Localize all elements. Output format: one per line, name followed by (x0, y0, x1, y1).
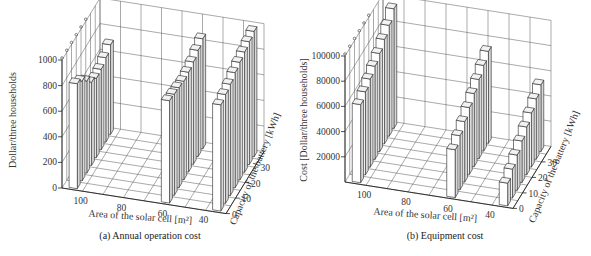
x-tick-label: 100 (73, 196, 88, 206)
z-tick-label: 80000 (316, 76, 340, 86)
y-tick-label: 0 (519, 204, 524, 214)
x-tick-label: 40 (199, 215, 209, 225)
z-tick-label: 40000 (316, 127, 340, 137)
x-tick-label: 100 (357, 190, 372, 200)
z-tick-label: 200 (43, 157, 58, 167)
chart-b-plot: 2000040000600008000010000010080604001020… (295, 0, 591, 256)
z-tick-label: 400 (43, 132, 58, 142)
z-tick-label: 20000 (316, 152, 340, 162)
z-axis-label: Cost [Dollar/three households] (298, 58, 309, 181)
x-tick-label: 40 (485, 210, 495, 220)
plot-group: 2000040000600008000010000010080604001020… (298, 0, 581, 224)
chart-b-caption: (b) Equipment cost (355, 230, 535, 241)
z-tick-label: 800 (43, 81, 58, 91)
z-tick-label: 100000 (312, 51, 341, 61)
z-tick-label: 0 (52, 183, 57, 193)
chart-panel-annual-operation-cost: 020040060080010001008060400102030Dollar/… (0, 0, 295, 256)
z-tick-label: 1000 (38, 55, 57, 65)
x-axis-label: Area of the solar cell [m²] (88, 207, 192, 225)
z-tick-label: 60000 (316, 101, 340, 111)
z-axis-label: Dollar/three households (7, 72, 18, 168)
chart-panel-equipment-cost: 2000040000600008000010000010080604001020… (295, 0, 591, 256)
chart-a-caption: (a) Annual operation cost (60, 230, 240, 241)
plot-group: 020040060080010001008060400102030Dollar/… (7, 0, 282, 226)
z-tick-label: 600 (43, 106, 58, 116)
x-tick-label: 80 (401, 197, 411, 207)
x-axis-label: Area of the solar cell [m²] (373, 205, 477, 223)
chart-a-plot: 020040060080010001008060400102030Dollar/… (0, 0, 295, 256)
